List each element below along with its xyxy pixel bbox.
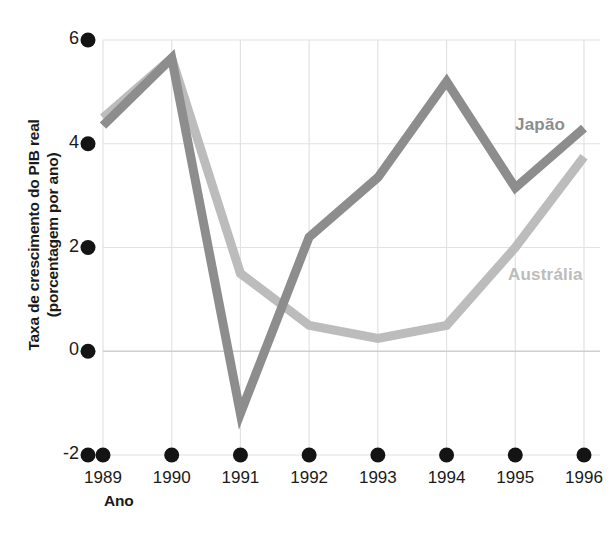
y-tick-label: 6 <box>45 28 79 49</box>
x-tick-label: 1994 <box>418 468 476 488</box>
series-label-japo: Japão <box>515 115 565 135</box>
series-lines <box>103 58 584 413</box>
y-tick-label: 4 <box>45 132 79 153</box>
series-line-austrlia <box>103 58 584 338</box>
x-tick-label: 1996 <box>555 468 613 488</box>
x-tick-label: 1992 <box>280 468 338 488</box>
series-line-japo <box>103 58 584 413</box>
y-tick-label: 0 <box>45 339 79 360</box>
x-tick-label: 1989 <box>74 468 132 488</box>
y-tick-label: 2 <box>45 236 79 257</box>
y-tick-dots <box>81 33 96 463</box>
series-label-austrlia: Austrália <box>508 265 583 285</box>
gdp-growth-line-chart: 6420-2 19891990199119921993199419951996 … <box>0 0 613 541</box>
x-tick-label: 1990 <box>143 468 201 488</box>
x-axis-title: Ano <box>104 492 134 510</box>
x-tick-label: 1995 <box>486 468 544 488</box>
x-tick-label: 1993 <box>349 468 407 488</box>
y-tick-label: -2 <box>45 443 79 464</box>
x-tick-label: 1991 <box>211 468 269 488</box>
